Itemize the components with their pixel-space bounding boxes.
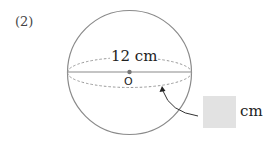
diameter-label: 12 cm <box>110 47 158 65</box>
arrow-curve <box>163 91 198 116</box>
center-dot <box>127 70 131 74</box>
unit-label: cm <box>240 102 263 120</box>
answer-box[interactable] <box>203 96 236 128</box>
arrow-head-icon <box>160 86 166 92</box>
sphere-diagram <box>0 0 279 141</box>
center-label: O <box>124 75 133 88</box>
